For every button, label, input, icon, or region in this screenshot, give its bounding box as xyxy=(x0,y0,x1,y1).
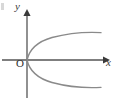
y-axis-label: y xyxy=(15,1,20,12)
coordinate-plane-svg xyxy=(0,0,115,104)
parabola-lower-branch xyxy=(27,60,101,88)
parabola-upper-branch xyxy=(27,32,101,60)
origin-label: O xyxy=(16,58,24,69)
parabola-figure: y x O xyxy=(0,0,115,104)
x-axis-label: x xyxy=(106,57,111,68)
y-axis-arrowhead xyxy=(23,9,30,16)
